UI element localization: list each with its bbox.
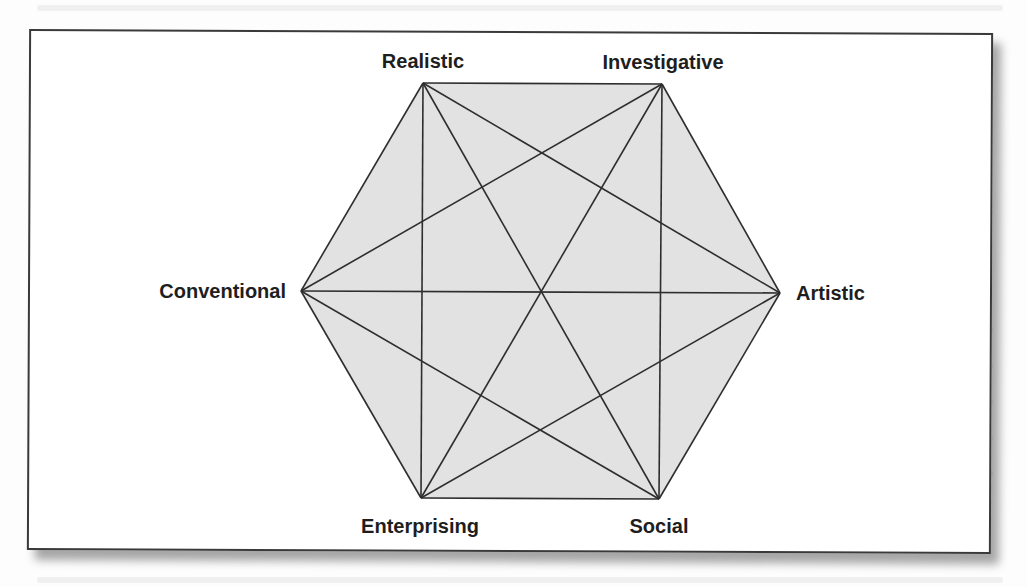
label-artistic: Artistic xyxy=(796,282,865,304)
label-investigative: Investigative xyxy=(602,51,723,73)
page: Realistic Investigative Artistic Social … xyxy=(0,0,1027,587)
label-enterprising: Enterprising xyxy=(361,515,479,537)
label-conventional: Conventional xyxy=(159,280,286,302)
edge-realistic-investigative xyxy=(423,83,662,84)
edge-social-enterprising xyxy=(421,498,659,499)
label-social: Social xyxy=(630,515,689,537)
label-realistic: Realistic xyxy=(382,50,464,72)
hexagon-diagram: Realistic Investigative Artistic Social … xyxy=(0,0,1027,587)
